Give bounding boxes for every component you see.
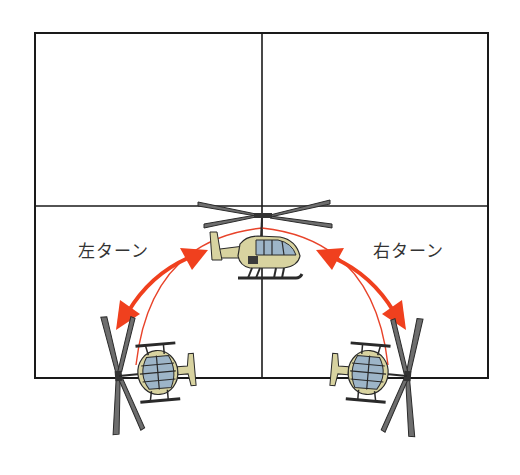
- left-turn-label: 左ターン: [78, 237, 149, 262]
- helicopter-bottom-left: [101, 310, 200, 435]
- right-turn-label: 右ターン: [373, 237, 444, 262]
- helicopter-bottom-right: [326, 312, 425, 437]
- helicopter-top-center: [198, 200, 332, 278]
